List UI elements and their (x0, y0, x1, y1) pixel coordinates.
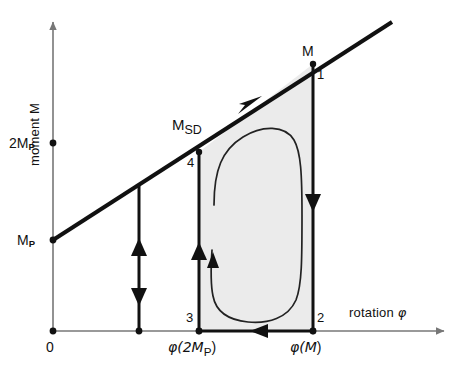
x-tick-label-phi-2Mp: φ(2MP) (168, 340, 216, 357)
y-tick-label-Mp: MP (17, 233, 35, 249)
x-tick-phi-2Mp-prefix: φ(2M (168, 339, 204, 355)
node-label-4: 4 (187, 156, 194, 169)
y-tick-Mp-main: M (17, 232, 29, 248)
origin-label: 0 (46, 340, 54, 354)
y-tick-label-2Mp: 2MP (9, 136, 35, 152)
y-tick-Mp-sub: P (29, 238, 35, 249)
msd-label-main: M (172, 116, 185, 133)
node-dot-3 (196, 328, 202, 334)
x-axis-label: rotation φ (349, 306, 407, 319)
node-label-2: 2 (317, 311, 324, 324)
elastic-arrow-down (131, 288, 147, 306)
tick-dot-2Mp (50, 140, 57, 147)
msd-label: MSD (172, 117, 202, 137)
node-dot-1 (310, 61, 316, 67)
m-point-label: M (302, 44, 314, 58)
node-label-1: 1 (317, 68, 324, 81)
node-dot-4 (196, 149, 202, 155)
y-tick-2Mp-main: 2M (9, 135, 28, 151)
x-tick-phi-M-prefix: φ(M (290, 339, 317, 355)
node-dot-2 (310, 328, 316, 334)
node-label-3: 3 (186, 311, 193, 324)
tick-dot-origin (50, 328, 57, 335)
y-axis-label: moment M (28, 103, 41, 166)
x-axis-label-text: rotation (349, 305, 398, 320)
msd-label-sub: SD (185, 123, 202, 137)
x-tick-label-phi-M: φ(M) (290, 340, 321, 354)
x-tick-phi-2Mp-suffix: ) (211, 339, 216, 355)
y-tick-2Mp-sub: P (28, 141, 34, 152)
elastic-arrow-up (131, 238, 147, 256)
x-tick-phi-M-suffix: ) (317, 339, 322, 355)
moment-rotation-diagram: moment M rotation φ 2MP MP 0 φ(2MP) φ(M)… (0, 0, 454, 376)
x-axis-label-symbol: φ (398, 305, 407, 320)
